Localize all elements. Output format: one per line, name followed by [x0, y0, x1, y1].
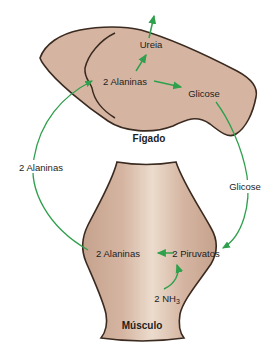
glucose-transport-label: Glicose — [229, 181, 261, 192]
urea-label: Ureia — [140, 39, 163, 50]
muscle-pyruvates-label: 2 Piruvatos — [172, 248, 220, 259]
muscle-title: Músculo — [122, 320, 163, 331]
liver-glucose-label: Glicose — [188, 88, 220, 99]
ammonia-subscript: 3 — [176, 298, 180, 305]
alanine-transport-label: 2 Alaninas — [19, 162, 63, 173]
liver-alanines-label: 2 Alaninas — [103, 76, 147, 87]
glucose-alanine-cycle-diagram: Ureia 2 Alaninas Glicose Fígado 2 Alanin… — [0, 0, 275, 350]
muscle-alanines-label: 2 Alaninas — [96, 248, 140, 259]
liver-title: Fígado — [133, 133, 166, 144]
diagram-canvas: Ureia 2 Alaninas Glicose Fígado 2 Alanin… — [0, 0, 275, 350]
ammonia-base: 2 NH — [154, 293, 176, 304]
